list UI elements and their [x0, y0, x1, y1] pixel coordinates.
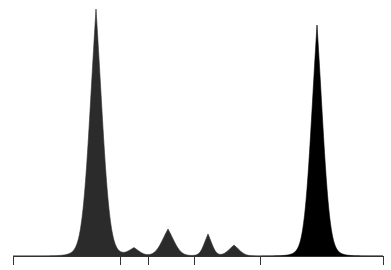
trace-1-area	[13, 9, 262, 256]
trace-2-area	[262, 25, 383, 256]
series-layer	[13, 9, 383, 256]
chromatogram-chart	[0, 0, 391, 270]
x-axis	[13, 256, 384, 265]
